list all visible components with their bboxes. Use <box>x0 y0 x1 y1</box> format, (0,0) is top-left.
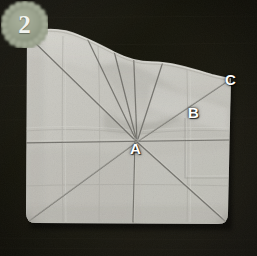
screenshot-root: 2 A B C <box>0 0 257 256</box>
step-number-badge: 2 <box>1 1 48 48</box>
scalloped-circle-icon <box>1 1 48 48</box>
